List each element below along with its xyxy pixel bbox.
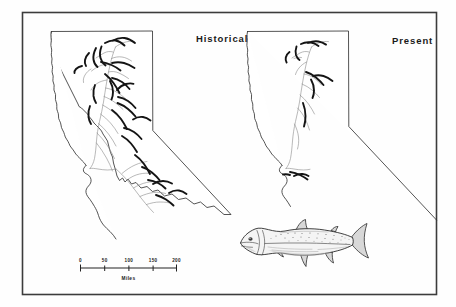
- scale-label-150: 150: [149, 258, 158, 263]
- scale-label-0: 0: [79, 258, 82, 263]
- salmon-eye-highlight: [249, 238, 250, 239]
- scale-unit-label: Miles: [122, 276, 136, 281]
- scale-label-100: 100: [125, 258, 134, 263]
- scale-label-200: 200: [172, 258, 181, 263]
- salmon-eye: [248, 237, 252, 240]
- panel-title-present: Present: [392, 35, 433, 46]
- panel-title-historical: Historical: [196, 33, 248, 44]
- scale-label-50: 50: [102, 258, 108, 263]
- figure-canvas: Historical Present 0 50 100 150 200 Mile…: [0, 0, 456, 307]
- figure-root: Historical Present 0 50 100 150 200 Mile…: [0, 0, 456, 307]
